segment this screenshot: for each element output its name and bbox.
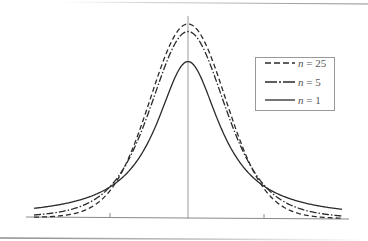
legend-label-n25: n = 25	[298, 57, 327, 69]
top-frame-line	[60, 2, 368, 4]
t-distribution-chart: n = 25 n = 5 n = 1	[0, 0, 368, 241]
axes	[26, 16, 349, 219]
legend: n = 25 n = 5 n = 1	[256, 57, 335, 111]
bottom-frame-line	[0, 238, 368, 240]
legend-label-n5: n = 5	[298, 76, 321, 88]
legend-label-n1: n = 1	[298, 94, 321, 106]
